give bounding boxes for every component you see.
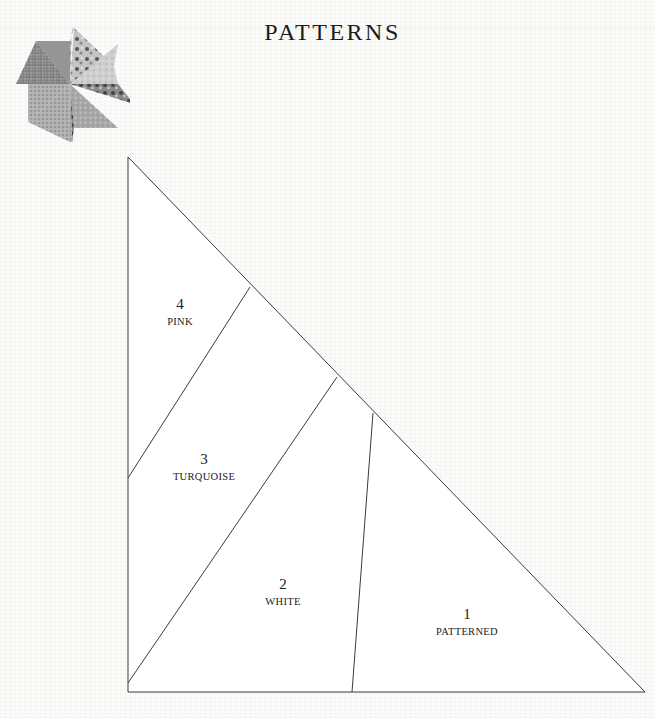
triangle-outline (128, 157, 645, 692)
piece-color: TURQUOISE (173, 470, 235, 484)
piece-number: 2 (265, 576, 300, 592)
pattern-template (0, 0, 655, 718)
piece-color: PATTERNED (436, 625, 498, 639)
piece-number: 3 (173, 451, 235, 467)
piece-label-1: 1 PATTERNED (436, 606, 498, 639)
piece-label-3: 3 TURQUOISE (173, 451, 235, 484)
piece-label-4: 4 PINK (167, 296, 193, 329)
piece-color: WHITE (265, 595, 300, 609)
piece-label-2: 2 WHITE (265, 576, 300, 609)
piece-number: 4 (167, 296, 193, 312)
piece-color: PINK (167, 315, 193, 329)
piece-number: 1 (436, 606, 498, 622)
